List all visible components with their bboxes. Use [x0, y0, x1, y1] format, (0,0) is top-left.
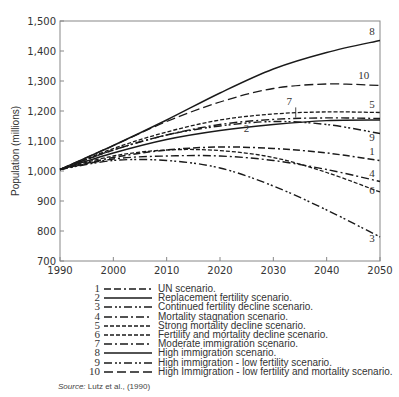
curve-label-6: 6 [369, 184, 375, 196]
legend-label: High Immigration - low fertility and mor… [158, 367, 393, 376]
legend-line-swatch [104, 284, 152, 293]
y-tick-label: 1,200 [27, 106, 56, 117]
x-tick-label: 2000 [101, 265, 126, 276]
legend-item-10: 10High Immigration - low fertility and m… [86, 367, 393, 376]
source-label: Source: [58, 382, 86, 391]
y-tick-label: 1,000 [27, 166, 56, 177]
curve-label-7: 7 [287, 95, 293, 107]
chart-series [60, 41, 380, 238]
x-tick-label: 2010 [154, 265, 179, 276]
y-tick-label: 1,300 [27, 76, 56, 87]
legend-line-swatch [104, 321, 152, 330]
source-text: Lutz et al., (1990) [88, 382, 150, 391]
x-tick-label: 2040 [314, 265, 339, 276]
source-note: Source: Lutz et al., (1990) [58, 382, 150, 391]
curve-label-4: 4 [369, 167, 375, 179]
legend-line-swatch [104, 339, 152, 348]
legend-line-swatch [104, 293, 152, 302]
y-tick-label: 1,400 [27, 46, 56, 57]
curve-label-8: 8 [369, 25, 375, 37]
y-tick-label: 800 [37, 226, 56, 237]
curve-label-5: 5 [369, 98, 375, 110]
legend-number: 10 [86, 367, 100, 376]
legend-line-swatch [104, 348, 152, 357]
x-tick-label: 2030 [261, 265, 286, 276]
curve-label-9: 9 [369, 131, 375, 143]
chart-legend: 1UN scenario.2Replacement fertility scen… [86, 284, 393, 376]
legend-line-swatch [104, 312, 152, 321]
series-line-9 [60, 121, 380, 169]
x-tick-label: 2020 [207, 265, 232, 276]
curve-label-1: 1 [369, 145, 375, 157]
curve-label-2: 2 [244, 122, 250, 134]
legend-line-swatch [104, 358, 152, 367]
curve-label-3: 3 [369, 232, 375, 244]
plot-frame [60, 21, 380, 261]
curve-label-10: 10 [358, 69, 370, 81]
x-tick-label: 2050 [367, 265, 392, 276]
legend-line-swatch [104, 330, 152, 339]
legend-line-swatch [104, 302, 152, 311]
chart-axes: 7008009001,0001,1001,2001,3001,4001,5001… [10, 16, 393, 277]
x-tick-label: 1990 [47, 265, 72, 276]
legend-line-swatch [104, 367, 152, 376]
series-line-2 [60, 120, 380, 170]
y-tick-label: 1,500 [27, 16, 56, 27]
y-tick-label: 900 [37, 196, 56, 207]
y-tick-label: 1,100 [27, 136, 56, 147]
y-axis-title: Population (millions) [10, 106, 21, 196]
